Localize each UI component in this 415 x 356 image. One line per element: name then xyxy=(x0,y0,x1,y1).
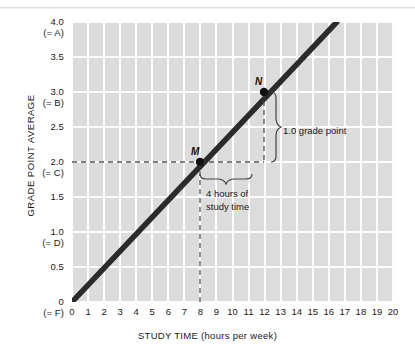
point-label-n: N xyxy=(255,76,262,87)
y-tick-letter-grade: (= D) xyxy=(18,237,64,248)
y-tick-value: 1.5 xyxy=(50,191,64,202)
gridline-horizontal xyxy=(72,266,393,268)
y-tick-letter-grade: (= F) xyxy=(18,307,64,318)
gridline-horizontal xyxy=(72,161,393,163)
y-tick-letter-grade: (= B) xyxy=(18,97,64,108)
point-label-m: M xyxy=(191,146,199,157)
y-axis-tick-label: 1.0(= D) xyxy=(18,226,64,248)
y-axis-tick-label: 2.5 xyxy=(18,121,64,132)
y-tick-value: 0.5 xyxy=(50,261,64,272)
y-tick-letter-grade: (= A) xyxy=(18,27,64,38)
y-axis-tick-label: 1.5 xyxy=(18,191,64,202)
run-annotation-label-line2: study time xyxy=(206,201,249,213)
y-tick-value: 1.0 xyxy=(50,226,64,237)
chart-figure: M N 1.0 grade point 4 hours of study tim… xyxy=(0,0,415,356)
y-tick-value: 3.5 xyxy=(50,51,64,62)
gridline-horizontal xyxy=(72,231,393,233)
y-tick-value: 2.0 xyxy=(50,156,64,167)
run-annotation-label-line1: 4 hours of xyxy=(206,188,248,200)
y-axis-tick-label: 2.0(= C) xyxy=(18,156,64,178)
y-tick-value: 4.0 xyxy=(50,16,64,27)
x-axis-title: STUDY TIME (hours per week) xyxy=(0,330,415,341)
y-tick-letter-grade: (= C) xyxy=(18,167,64,178)
gridline-horizontal xyxy=(72,21,393,23)
y-axis-tick-label: 3.0(= B) xyxy=(18,86,64,108)
plot-area xyxy=(72,22,393,302)
scan-artifact-line-secondary xyxy=(0,8,415,9)
y-axis-tick-label: 4.0(= A) xyxy=(18,16,64,38)
y-tick-value: 3.0 xyxy=(50,86,64,97)
rise-annotation-label: 1.0 grade point xyxy=(283,125,346,137)
y-axis-tick-label: 3.5 xyxy=(18,51,64,62)
y-tick-value: 2.5 xyxy=(50,121,64,132)
y-axis-tick-label: 0(= F) xyxy=(18,296,64,318)
x-axis-tick-label: 20 xyxy=(384,306,402,317)
gridline-horizontal xyxy=(72,56,393,58)
gridline-horizontal xyxy=(72,91,393,93)
y-axis-tick-label: 0.5 xyxy=(18,261,64,272)
gridline-horizontal xyxy=(72,301,393,303)
